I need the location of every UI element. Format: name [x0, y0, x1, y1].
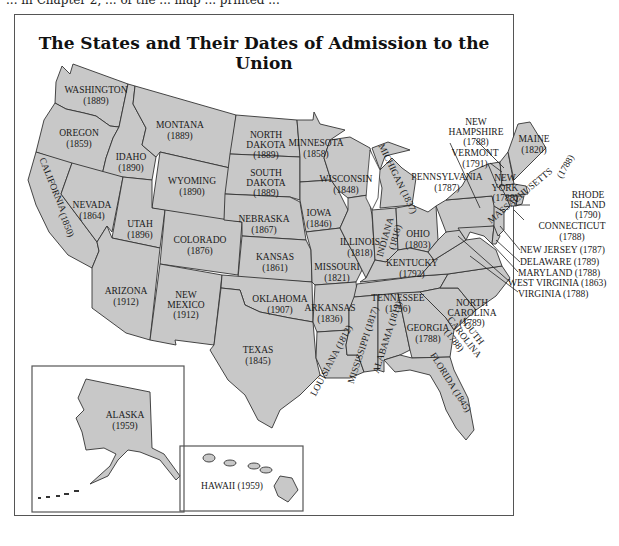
svg-text:(1788): (1788) — [555, 153, 577, 180]
svg-text:DELAWARE (1789): DELAWARE (1789) — [520, 257, 599, 268]
svg-text:VERMONT: VERMONT — [452, 148, 499, 158]
svg-text:HAMPSHIRE: HAMPSHIRE — [449, 127, 504, 137]
svg-text:VIRGINIA (1788): VIRGINIA (1788) — [518, 289, 588, 300]
svg-text:(1821): (1821) — [324, 273, 349, 284]
svg-text:(1896): (1896) — [127, 230, 152, 241]
svg-text:(1889): (1889) — [253, 188, 278, 199]
svg-text:WEST VIRGINIA (1863): WEST VIRGINIA (1863) — [508, 278, 606, 289]
svg-text:WISCONSIN: WISCONSIN — [320, 174, 373, 184]
svg-text:ISLAND: ISLAND — [571, 200, 606, 210]
state-hawaii-islands — [203, 454, 298, 502]
svg-text:RHODE: RHODE — [572, 190, 605, 200]
svg-text:CONNECTICUT: CONNECTICUT — [538, 221, 605, 231]
svg-text:(1859): (1859) — [66, 139, 91, 150]
svg-text:(1848): (1848) — [333, 185, 358, 196]
svg-text:(1791): (1791) — [462, 159, 487, 170]
svg-text:OHIO: OHIO — [406, 229, 430, 239]
us-states-map: WASHINGTON (1889) OREGON (1859) IDAHO (1… — [0, 0, 619, 546]
svg-text:ARIZONA: ARIZONA — [105, 286, 148, 296]
svg-text:NEW: NEW — [465, 117, 487, 127]
svg-text:(1912): (1912) — [173, 310, 198, 321]
svg-text:(1876): (1876) — [187, 246, 212, 257]
svg-text:YORK: YORK — [492, 183, 519, 193]
svg-text:KENTUCKY: KENTUCKY — [386, 258, 438, 268]
svg-text:(1845): (1845) — [245, 356, 270, 367]
svg-text:MONTANA: MONTANA — [156, 120, 204, 130]
svg-text:(1796): (1796) — [385, 304, 410, 315]
svg-text:(1846): (1846) — [306, 219, 331, 230]
svg-text:SOUTH: SOUTH — [250, 168, 282, 178]
svg-text:UTAH: UTAH — [127, 219, 153, 229]
svg-text:GEORGIA: GEORGIA — [407, 323, 450, 333]
svg-text:NEW: NEW — [175, 290, 197, 300]
svg-text:(1867): (1867) — [251, 225, 276, 236]
alaska-year: (1959) — [112, 421, 137, 432]
aleutian-islands — [38, 490, 79, 499]
svg-text:TENNESSEE: TENNESSEE — [371, 293, 425, 303]
svg-text:IOWA: IOWA — [307, 208, 332, 218]
svg-text:ARKANSAS: ARKANSAS — [304, 303, 355, 313]
svg-text:(1788): (1788) — [559, 232, 584, 243]
svg-text:(1788): (1788) — [415, 334, 440, 345]
svg-text:COLORADO: COLORADO — [174, 235, 227, 245]
svg-text:(1820): (1820) — [521, 145, 546, 156]
svg-text:(1889): (1889) — [253, 150, 278, 161]
svg-text:NEW JERSEY (1787): NEW JERSEY (1787) — [520, 245, 605, 256]
svg-text:(1861): (1861) — [262, 263, 287, 274]
svg-text:OKLAHOMA: OKLAHOMA — [252, 294, 308, 304]
svg-text:MINNESOTA: MINNESOTA — [288, 138, 343, 148]
svg-text:DAKOTA: DAKOTA — [246, 178, 285, 188]
svg-text:PENNSYLVANIA: PENNSYLVANIA — [411, 172, 482, 182]
svg-text:(1790): (1790) — [575, 210, 600, 221]
svg-text:(1818): (1818) — [347, 248, 372, 259]
svg-text:(1907): (1907) — [267, 305, 292, 316]
svg-text:(1836): (1836) — [317, 314, 342, 325]
svg-text:OREGON: OREGON — [59, 128, 99, 138]
svg-text:MAINE: MAINE — [518, 134, 549, 144]
svg-text:(1912): (1912) — [113, 297, 138, 308]
svg-text:(1864): (1864) — [79, 211, 104, 222]
svg-text:DAKOTA: DAKOTA — [246, 140, 285, 150]
svg-text:(1889): (1889) — [167, 131, 192, 142]
svg-text:KANSAS: KANSAS — [256, 252, 294, 262]
alaska-label: ALASKA — [106, 410, 145, 420]
svg-text:(1890): (1890) — [118, 163, 143, 174]
svg-text:NORTH: NORTH — [456, 298, 488, 308]
svg-text:(1788): (1788) — [463, 137, 488, 148]
svg-text:IDAHO: IDAHO — [116, 152, 147, 162]
svg-text:WASHINGTON: WASHINGTON — [64, 85, 127, 95]
svg-text:(1792): (1792) — [399, 269, 424, 280]
state-alaska — [76, 379, 180, 484]
svg-text:MEXICO: MEXICO — [167, 300, 205, 310]
svg-text:(1858): (1858) — [303, 149, 328, 160]
svg-text:NORTH: NORTH — [250, 130, 282, 140]
svg-text:(1889): (1889) — [83, 96, 108, 107]
svg-text:(1787): (1787) — [434, 183, 459, 194]
svg-text:(1803): (1803) — [405, 240, 430, 251]
hawaii-label: HAWAII (1959) — [201, 481, 263, 492]
svg-text:NEBRASKA: NEBRASKA — [238, 214, 289, 224]
svg-text:TEXAS: TEXAS — [243, 345, 274, 355]
svg-text:WYOMING: WYOMING — [168, 176, 216, 186]
svg-text:(1890): (1890) — [179, 187, 204, 198]
svg-text:NEW: NEW — [494, 173, 516, 183]
svg-text:MISSOURI: MISSOURI — [314, 262, 359, 272]
svg-text:ILLINOIS: ILLINOIS — [340, 237, 380, 247]
svg-text:NEVADA: NEVADA — [73, 200, 112, 210]
